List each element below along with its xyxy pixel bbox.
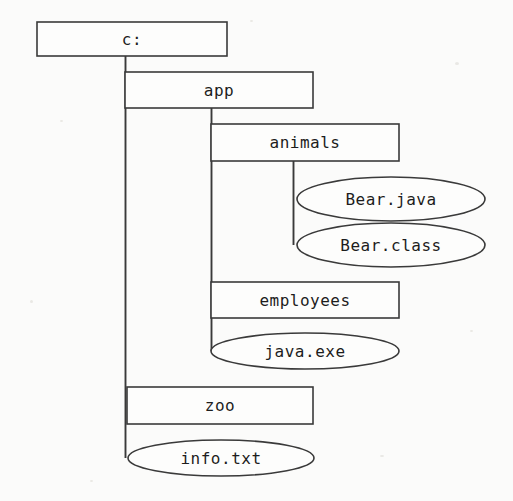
node-app-label: app bbox=[204, 81, 234, 100]
node-bear-class-label: Bear.class bbox=[340, 236, 441, 255]
node-java-exe-label: java.exe bbox=[264, 342, 345, 361]
node-app[interactable]: app bbox=[125, 72, 313, 108]
node-employees-label: employees bbox=[259, 291, 350, 310]
node-animals[interactable]: animals bbox=[211, 124, 399, 161]
node-zoo[interactable]: zoo bbox=[127, 387, 313, 424]
file-tree-diagram: c: app animals Bear.java Bear.class empl… bbox=[0, 0, 513, 501]
node-bear-class[interactable]: Bear.class bbox=[297, 223, 485, 267]
diagram-canvas: c: app animals Bear.java Bear.class empl… bbox=[0, 0, 513, 501]
node-info-txt[interactable]: info.txt bbox=[128, 440, 314, 476]
node-info-txt-label: info.txt bbox=[180, 449, 261, 468]
node-root[interactable]: c: bbox=[37, 22, 227, 56]
node-java-exe[interactable]: java.exe bbox=[211, 333, 399, 369]
node-animals-label: animals bbox=[270, 133, 341, 152]
node-root-label: c: bbox=[122, 30, 142, 49]
node-bear-java-label: Bear.java bbox=[345, 190, 436, 209]
node-zoo-label: zoo bbox=[205, 396, 235, 415]
node-bear-java[interactable]: Bear.java bbox=[297, 177, 485, 221]
node-employees[interactable]: employees bbox=[211, 282, 399, 318]
